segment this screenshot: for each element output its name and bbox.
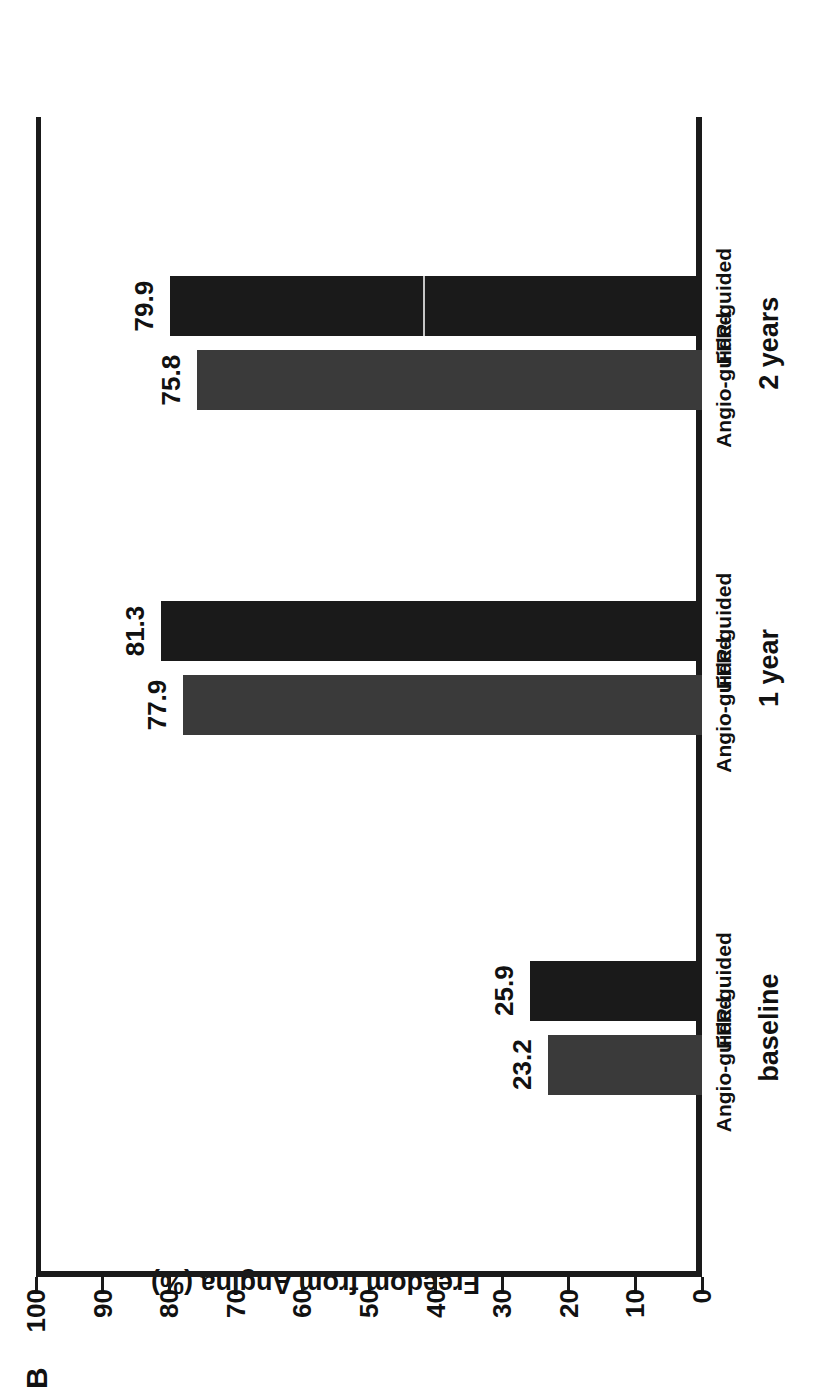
bar-value-label: 25.9	[489, 965, 520, 1016]
bar: 25.9	[530, 961, 702, 1021]
y-axis-tick-label: 100	[21, 1289, 52, 1332]
bar-value-label: 23.2	[507, 1039, 538, 1090]
bar-value-label: 79.9	[129, 281, 160, 332]
bar: 79.9	[170, 276, 702, 336]
panel-letter: B	[20, 1367, 54, 1389]
y-axis-tick-label: 40	[420, 1289, 451, 1318]
scan-artifact-line	[423, 276, 425, 336]
group-label: baseline	[754, 974, 785, 1082]
y-axis-tick-label: 20	[553, 1289, 584, 1318]
group-label: 2 years	[754, 297, 785, 390]
y-axis-tick-label: 70	[220, 1289, 251, 1318]
bar: 23.2	[548, 1035, 703, 1095]
y-axis-tick-label: 0	[687, 1289, 718, 1303]
y-axis-tick-label: 30	[487, 1289, 518, 1318]
series-label: FFR-guided	[712, 248, 736, 365]
category-label-area: Angio-guidedFFR-guidedbaselineAngio-guid…	[702, 117, 822, 1277]
plot-area: 0102030405060708090100 23.225.977.981.37…	[36, 117, 702, 1277]
series-label: FFR-guided	[712, 573, 736, 690]
bar: 81.3	[161, 601, 702, 661]
group-label: 1 year	[754, 629, 785, 707]
figure-panel-b: B Freedom from Angina (%) 01020304050607…	[0, 0, 836, 1397]
bar: 77.9	[183, 675, 702, 735]
bar-value-label: 75.8	[156, 355, 187, 406]
y-axis-tick-label: 80	[154, 1289, 185, 1318]
bar: 75.8	[197, 350, 702, 410]
series-label: FFR-guided	[712, 932, 736, 1049]
y-axis-tick-label: 50	[354, 1289, 385, 1318]
bar-value-label: 77.9	[142, 680, 173, 731]
y-axis-tick-label: 60	[287, 1289, 318, 1318]
y-axis-tick-label: 90	[87, 1289, 118, 1318]
y-axis-tick-label: 10	[620, 1289, 651, 1318]
bar-value-label: 81.3	[120, 606, 151, 657]
